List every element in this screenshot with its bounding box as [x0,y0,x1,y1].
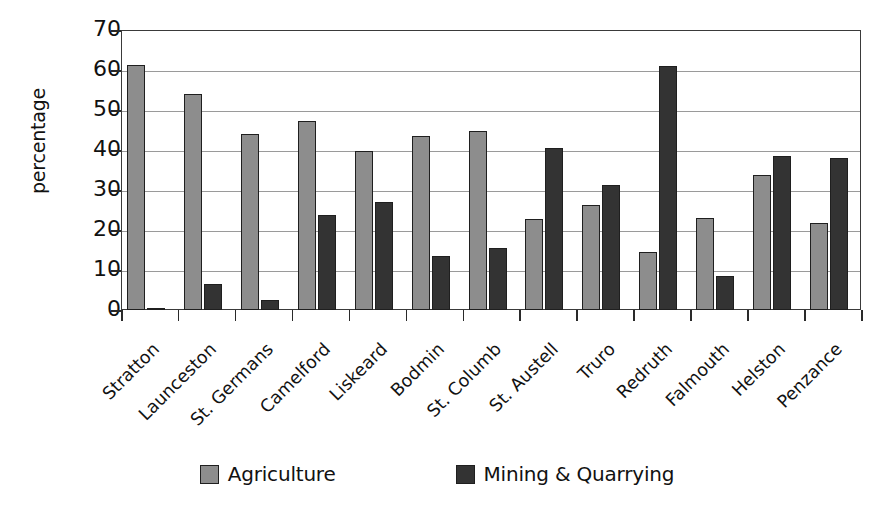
legend-label: Mining & Quarrying [484,462,675,486]
legend-swatch-icon [200,465,219,484]
legend-item: Mining & Quarrying [456,462,675,486]
legend-item: Agriculture [200,462,336,486]
legend-label: Agriculture [228,462,336,486]
x-axis-labels: StrattonLauncestonSt. GermansCamelfordLi… [0,0,874,532]
legend-swatch-icon [456,465,475,484]
chart-legend: AgricultureMining & Quarrying [0,462,874,486]
bar-chart: percentage 706050403020100 StrattonLaunc… [0,0,874,532]
